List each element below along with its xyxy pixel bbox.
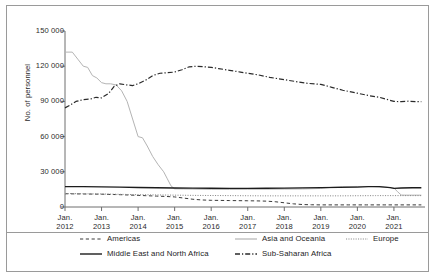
x-tick-month: Jan. xyxy=(371,213,417,222)
chart-legend: Americas Asia and Oceania Europe Midd xyxy=(6,234,429,272)
legend-key-solid-light-icon xyxy=(235,235,257,243)
legend-label-europe: Europe xyxy=(373,234,399,243)
y-tick-label: 90 000 xyxy=(40,96,64,105)
x-tick-year: 2021 xyxy=(371,222,417,231)
legend-item-middle-east-and-north-africa[interactable]: Middle East and North Africa xyxy=(80,249,209,258)
legend-item-asia-and-oceania[interactable]: Asia and Oceania xyxy=(235,234,325,243)
legend-label-americas: Americas xyxy=(107,234,140,243)
legend-label-middle-east-and-north-africa: Middle East and North Africa xyxy=(107,249,209,258)
legend-label-asia-and-oceania: Asia and Oceania xyxy=(262,234,325,243)
y-tick-label: 120 000 xyxy=(36,61,64,70)
legend-key-dashed-icon xyxy=(80,235,102,243)
y-tick: 60 000 xyxy=(22,132,64,142)
legend-row-1: Americas Asia and Oceania Europe xyxy=(6,234,429,249)
y-tick: 150 000 xyxy=(22,26,64,36)
legend-item-europe[interactable]: Europe xyxy=(346,234,399,243)
chart-figure: No. of personnel 030 00060 00090 000120 … xyxy=(0,0,435,277)
y-tick: 90 000 xyxy=(22,96,64,106)
y-tick: 30 000 xyxy=(22,167,64,177)
y-tick-label: 0 xyxy=(60,202,64,211)
y-tick: 0 xyxy=(22,202,64,212)
legend-row-2: Middle East and North Africa Sub-Saharan… xyxy=(6,249,429,264)
legend-item-sub-saharan-africa[interactable]: Sub-Saharan Africa xyxy=(235,249,331,258)
series-line-europe xyxy=(65,194,421,196)
y-tick-label: 150 000 xyxy=(36,26,64,35)
legend-item-americas[interactable]: Americas xyxy=(80,234,140,243)
legend-label-sub-saharan-africa: Sub-Saharan Africa xyxy=(262,249,331,258)
legend-key-dotted-icon xyxy=(346,235,368,243)
legend-key-dashdot-icon xyxy=(235,250,257,258)
y-tick-label: 60 000 xyxy=(40,132,64,141)
x-tick-label: Jan.2021 xyxy=(371,213,417,231)
legend-key-solid-dark-icon xyxy=(80,250,102,258)
y-tick: 120 000 xyxy=(22,61,64,71)
series-line-middle-east-and-north-africa xyxy=(65,187,421,189)
y-tick-label: 30 000 xyxy=(40,167,64,176)
series-line-asia-and-oceania xyxy=(65,52,421,195)
